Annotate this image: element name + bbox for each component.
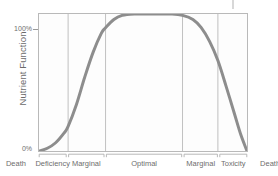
region-divider-lines bbox=[68, 14, 218, 151]
nutrient-function-curve bbox=[39, 14, 247, 151]
scan-artifact bbox=[232, 0, 234, 9]
x-axis-label-deficiency-1: Deficiency bbox=[35, 159, 70, 168]
x-axis-label-death-0: Death bbox=[6, 159, 26, 168]
plot-area bbox=[38, 13, 248, 152]
x-axis-bracket-band bbox=[38, 152, 248, 159]
x-axis-label-toxicity-5: Toxicity bbox=[221, 159, 246, 168]
region-bracket-4 bbox=[220, 154, 247, 157]
x-axis-label-marginal-2: Marginal bbox=[72, 159, 101, 168]
region-bracket-3 bbox=[184, 154, 217, 157]
y-axis-tick-label-100: 100% bbox=[6, 25, 32, 32]
x-axis-label-row: DeathDeficiencyMarginalOptimalMarginalTo… bbox=[0, 159, 278, 173]
region-bracket-1 bbox=[69, 154, 104, 157]
x-axis-label-optimal-3: Optimal bbox=[131, 159, 157, 168]
plot-svg bbox=[39, 14, 247, 151]
bracket-svg bbox=[38, 152, 248, 159]
y-axis-tick-label-0: 0% bbox=[6, 145, 32, 152]
nutrient-function-chart: Nutrient Function 100% 0% DeathDeficienc… bbox=[0, 0, 278, 176]
x-axis-label-marginal-4: Marginal bbox=[186, 159, 215, 168]
region-bracket-2 bbox=[106, 154, 181, 157]
region-bracket-0 bbox=[39, 154, 66, 157]
x-axis-label-death-6: Death bbox=[260, 159, 278, 168]
